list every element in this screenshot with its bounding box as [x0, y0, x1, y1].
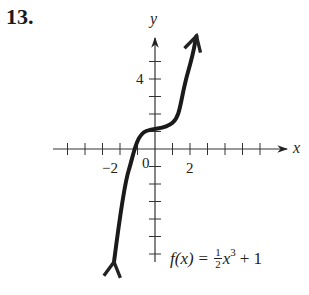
formula-fraction: 1 2	[214, 247, 222, 270]
x-tick-label-2: 2	[186, 160, 194, 176]
x-axis-label: x	[292, 139, 300, 156]
function-graph: y x 4 −2 0 2	[0, 0, 309, 295]
x-tick-label-0: 0	[142, 155, 150, 171]
y-tick-label-4: 4	[136, 71, 144, 87]
fraction-denominator: 2	[215, 259, 221, 270]
function-formula: f(x) = 1 2 x 3 + 1	[170, 247, 262, 270]
formula-equals: =	[199, 249, 209, 269]
y-axis-label: y	[148, 10, 158, 28]
x-tick-label-neg2: −2	[102, 160, 118, 176]
formula-exponent: 3	[230, 246, 236, 258]
formula-lhs: f(x)	[170, 249, 194, 269]
formula-variable: x	[223, 249, 231, 269]
formula-constant: + 1	[240, 249, 262, 269]
